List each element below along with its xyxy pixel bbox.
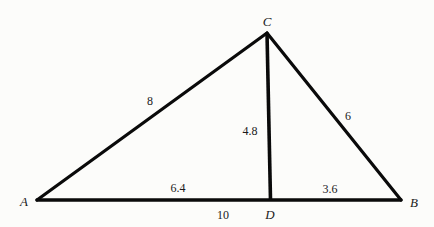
vertex-label-b: B — [410, 196, 418, 209]
length-label-db: 3.6 — [323, 183, 338, 195]
side-ac — [37, 33, 267, 200]
length-label-ad: 6.4 — [171, 182, 186, 194]
length-label-ac: 8 — [147, 95, 153, 107]
side-cb — [267, 33, 401, 200]
vertex-label-c: C — [263, 15, 272, 28]
vertex-label-a: A — [20, 195, 28, 208]
length-label-ab: 10 — [217, 209, 229, 221]
length-label-cd: 4.8 — [243, 125, 258, 137]
triangle-figure — [0, 0, 434, 227]
vertex-label-d: D — [265, 208, 274, 221]
altitude-cd — [267, 33, 271, 200]
triangle-diagram: A B C D 8 6 10 4.8 6.4 3.6 — [0, 0, 434, 227]
length-label-cb: 6 — [345, 110, 351, 122]
